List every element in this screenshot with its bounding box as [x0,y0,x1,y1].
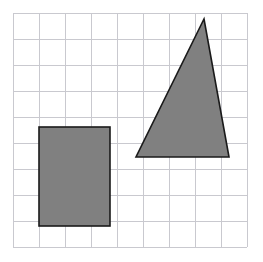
geometry-diagram [0,0,263,262]
figure-canvas [0,0,263,262]
shaded-rectangle [39,127,110,226]
